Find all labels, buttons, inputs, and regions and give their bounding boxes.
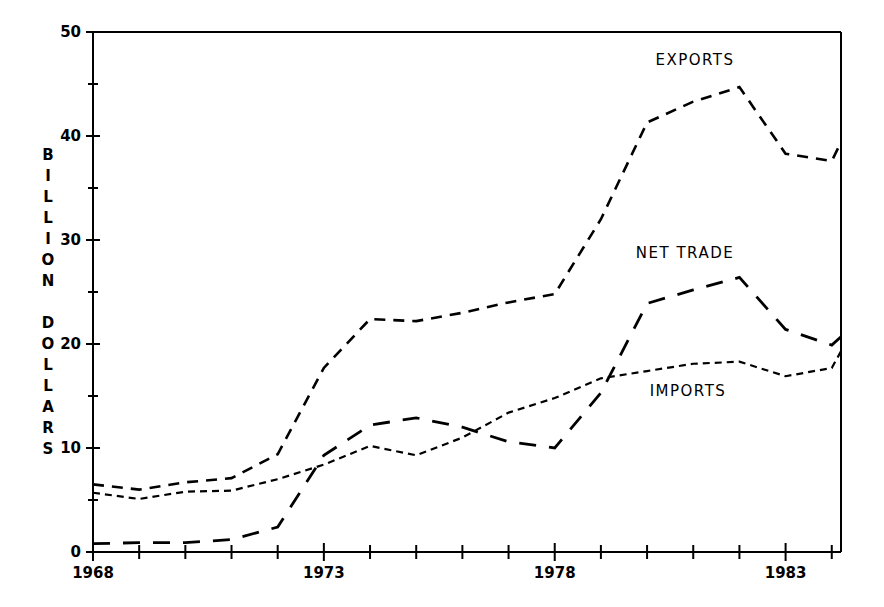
y-axis-title-letter: I <box>45 167 51 185</box>
y-tick-label-40: 40 <box>60 127 81 145</box>
y-axis-title-letter: R <box>42 419 54 437</box>
y-axis-title-letter: O <box>42 335 55 353</box>
x-tick-label-1983: 1983 <box>765 564 807 582</box>
y-axis-title-letter: O <box>42 251 55 269</box>
chart-figure: 01020304050 1968197319781983 BILLIONDOLL… <box>0 0 884 607</box>
y-tick-label-10: 10 <box>60 439 81 457</box>
x-tick-label-1973: 1973 <box>303 564 345 582</box>
y-axis-title-letter: I <box>45 230 51 248</box>
y-axis-title-letter: L <box>43 188 53 206</box>
line-chart-canvas: 01020304050 1968197319781983 BILLIONDOLL… <box>0 0 884 607</box>
y-tick-label-0: 0 <box>71 543 81 561</box>
series-label-exports: EXPORTS <box>655 51 734 69</box>
y-axis-title-letter: D <box>42 314 54 332</box>
y-axis-title-letter: L <box>43 209 53 227</box>
y-tick-label-20: 20 <box>60 335 81 353</box>
y-axis-title-letter: N <box>42 272 55 290</box>
y-axis-title-letter: L <box>43 377 53 395</box>
series-label-net-trade: NET TRADE <box>636 244 734 262</box>
x-tick-label-1968: 1968 <box>72 564 114 582</box>
chart-background <box>0 0 884 607</box>
y-axis-title-letter: B <box>42 146 53 164</box>
y-axis-title-letter: L <box>43 356 53 374</box>
y-axis-title-letter: A <box>42 398 54 416</box>
y-tick-label-30: 30 <box>60 231 81 249</box>
series-label-imports: IMPORTS <box>650 382 727 400</box>
y-axis-title-letter: S <box>43 440 54 458</box>
y-tick-label-50: 50 <box>60 23 81 41</box>
x-tick-label-1978: 1978 <box>534 564 576 582</box>
